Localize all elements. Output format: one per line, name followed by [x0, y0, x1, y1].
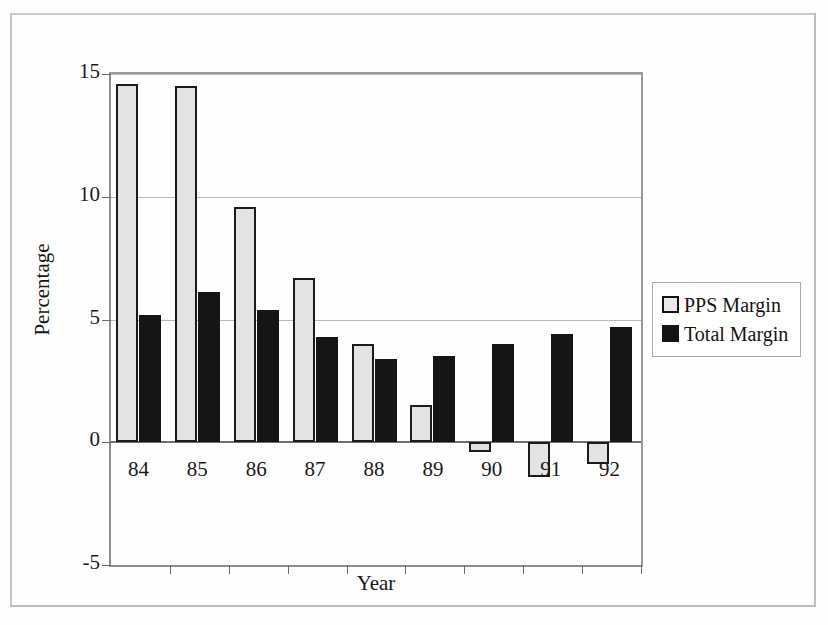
- y-axis-tick-labels: 151050-5: [56, 15, 100, 625]
- gridline: [111, 74, 641, 75]
- bar-pps-margin-90: [469, 442, 491, 452]
- bar-pps-margin-86: [234, 207, 256, 443]
- y-axis-tick-mark: [102, 442, 111, 443]
- bar-pps-margin-89: [410, 405, 432, 442]
- y-axis-tick-label: 0: [90, 429, 101, 450]
- figure-frame: 151050-5 Percentage 848586878889909192 Y…: [10, 13, 816, 607]
- chart-figure: 151050-5 Percentage 848586878889909192 Y…: [0, 0, 828, 625]
- y-axis-tick-label: 15: [79, 61, 100, 82]
- y-axis-tick-label: 5: [90, 307, 101, 328]
- y-axis-tick-mark: [102, 197, 111, 198]
- x-axis-label-89: 89: [403, 457, 462, 481]
- y-axis-tick-mark: [102, 74, 111, 75]
- y-axis-title: Percentage: [30, 210, 55, 370]
- legend-item-pps-margin: PPS Margin: [662, 290, 788, 319]
- x-axis-label-87: 87: [286, 457, 345, 481]
- x-axis-label-85: 85: [168, 457, 227, 481]
- bar-total-margin-86: [257, 310, 279, 443]
- bar-pps-margin-87: [293, 278, 315, 442]
- x-axis-label-91: 91: [521, 457, 580, 481]
- x-axis-label-88: 88: [345, 457, 404, 481]
- bar-total-margin-84: [139, 315, 161, 443]
- bar-pps-margin-84: [116, 84, 138, 442]
- legend-item-total-margin: Total Margin: [662, 319, 788, 348]
- bar-pps-margin-88: [352, 344, 374, 442]
- x-axis-label-84: 84: [109, 457, 168, 481]
- bar-total-margin-88: [375, 359, 397, 442]
- y-axis-tick-label: -5: [83, 552, 101, 573]
- bar-total-margin-89: [433, 356, 455, 442]
- bar-total-margin-91: [551, 334, 573, 442]
- y-axis-tick-mark: [102, 565, 111, 566]
- legend-label-total-margin: Total Margin: [684, 323, 788, 345]
- legend-label-pps-margin: PPS Margin: [684, 294, 781, 316]
- bar-total-margin-85: [198, 292, 220, 442]
- x-axis-title: Year: [109, 571, 643, 596]
- bar-total-margin-92: [610, 327, 632, 442]
- legend-swatch-total-margin: [662, 325, 679, 342]
- plot-area: [109, 72, 643, 567]
- bar-total-margin-87: [316, 337, 338, 443]
- x-axis-label-92: 92: [580, 457, 639, 481]
- y-axis-tick-label: 10: [79, 184, 100, 205]
- chart-legend: PPS Margin Total Margin: [652, 282, 801, 357]
- x-axis-label-90: 90: [462, 457, 521, 481]
- y-axis-tick-mark: [102, 320, 111, 321]
- x-axis-label-86: 86: [227, 457, 286, 481]
- bar-total-margin-90: [492, 344, 514, 442]
- bar-pps-margin-85: [175, 86, 197, 442]
- x-axis-tick-labels: 848586878889909192: [109, 457, 643, 491]
- legend-swatch-pps-margin: [662, 296, 679, 313]
